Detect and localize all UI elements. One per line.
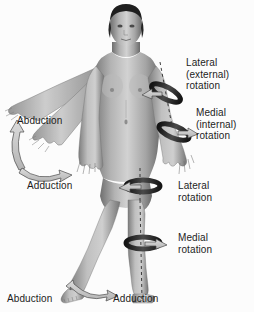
anatomy-illustration [0, 0, 254, 312]
label-abduction-leg: Abduction [7, 293, 52, 305]
label-adduction-leg: Adduction [113, 293, 158, 305]
label-medial-internal-rotation: Medial (internal) rotation [196, 107, 236, 142]
label-lateral-external-rotation: Lateral (external) rotation [186, 57, 229, 92]
anatomy-range-of-motion-figure: Lateral (external) rotation Medial (inte… [0, 0, 254, 312]
label-lateral-rotation: Lateral rotation [178, 180, 212, 203]
label-abduction-arm: Abduction [17, 115, 62, 127]
label-medial-rotation: Medial rotation [178, 232, 212, 255]
label-adduction-arm: Adduction [27, 180, 72, 192]
